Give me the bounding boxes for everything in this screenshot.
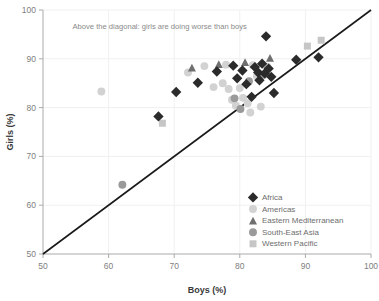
chart-background bbox=[0, 0, 379, 301]
chart-annotation: Above the diagonal: girls are doing wors… bbox=[73, 22, 248, 31]
data-point bbox=[222, 61, 230, 69]
x-tick-label: 70 bbox=[169, 261, 179, 271]
legend-label: Americas bbox=[262, 205, 295, 214]
scatter-chart: 50607080901005060708090100 Above the dia… bbox=[0, 0, 379, 301]
data-point bbox=[318, 37, 325, 44]
x-axis-title: Boys (%) bbox=[188, 285, 227, 295]
data-point bbox=[225, 85, 233, 93]
x-tick-label: 80 bbox=[235, 261, 245, 271]
y-tick-label: 70 bbox=[27, 151, 37, 161]
y-tick-label: 60 bbox=[27, 200, 37, 210]
data-point bbox=[97, 88, 105, 96]
y-tick-label: 80 bbox=[27, 103, 37, 113]
y-axis-title: Girls (%) bbox=[5, 113, 15, 150]
legend-label: Africa bbox=[262, 193, 283, 202]
legend-label: Western Pacific bbox=[262, 239, 317, 248]
chart-canvas: 50607080901005060708090100 Above the dia… bbox=[0, 0, 379, 301]
y-tick-label: 100 bbox=[22, 5, 36, 15]
legend-marker bbox=[249, 228, 257, 236]
x-tick-label: 50 bbox=[38, 261, 48, 271]
data-point bbox=[246, 109, 254, 117]
data-point bbox=[257, 103, 265, 111]
y-tick-label: 90 bbox=[27, 54, 37, 64]
legend-marker bbox=[250, 240, 257, 247]
legend-marker bbox=[249, 205, 257, 213]
x-tick-label: 90 bbox=[301, 261, 311, 271]
data-point bbox=[200, 62, 208, 70]
legend-item-africa[interactable]: Africa bbox=[248, 192, 283, 202]
data-point bbox=[210, 83, 218, 91]
data-point bbox=[159, 120, 166, 127]
legend-label: South-East Asia bbox=[262, 228, 319, 237]
x-tick-label: 100 bbox=[364, 261, 378, 271]
data-point bbox=[118, 181, 126, 189]
data-point bbox=[304, 43, 311, 50]
y-tick-label: 50 bbox=[27, 249, 37, 259]
data-point bbox=[231, 94, 239, 102]
x-tick-label: 60 bbox=[104, 261, 114, 271]
legend-item-eastern-mediterranean[interactable]: Eastern Mediterranean bbox=[249, 216, 343, 225]
annotation-layer: Above the diagonal: girls are doing wors… bbox=[73, 22, 248, 31]
data-point bbox=[237, 105, 245, 113]
data-point bbox=[219, 79, 227, 87]
legend-label: Eastern Mediterranean bbox=[262, 216, 343, 225]
